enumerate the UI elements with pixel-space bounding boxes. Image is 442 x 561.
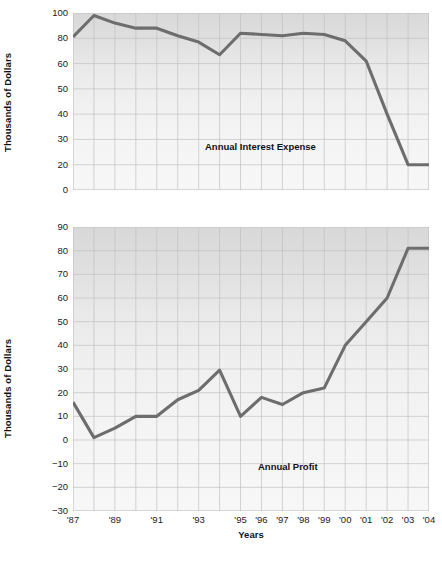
- y-tick-label: 100: [18, 8, 68, 18]
- series-annotation-bottom: Annual Profit: [258, 461, 318, 472]
- chart-annual-interest-expense: Thousands of Dollars 1008060504030200 An…: [0, 4, 442, 212]
- y-tick-label: 10: [18, 412, 68, 422]
- y-tick-label: 40: [18, 109, 68, 119]
- x-tick-label: '91: [151, 514, 163, 525]
- plot-area-top: [73, 13, 429, 190]
- y-tick-label: 30: [18, 364, 68, 374]
- y-tick-label: 0: [18, 185, 68, 195]
- x-tick-label: '89: [109, 514, 121, 525]
- y-tick-label: 50: [18, 84, 68, 94]
- y-tick-label: 60: [18, 59, 68, 69]
- x-tick-label: '96: [255, 514, 267, 525]
- y-tick-label: 40: [18, 341, 68, 351]
- x-tick-label: '99: [318, 514, 330, 525]
- plot-area-bottom: [73, 227, 429, 511]
- x-axis-title: Years: [73, 529, 429, 540]
- chart-annual-profit: Thousands of Dollars 9080706050403020100…: [0, 218, 442, 558]
- y-tick-label: 20: [18, 388, 68, 398]
- chart-page: Thousands of Dollars 1008060504030200 An…: [0, 0, 442, 561]
- y-tick-label: −20: [18, 483, 68, 493]
- y-tick-label: 80: [18, 34, 68, 44]
- x-tick-label: '03: [402, 514, 414, 525]
- y-axis-title-bottom: Thousands of Dollars: [2, 288, 13, 488]
- x-tick-label: '01: [360, 514, 372, 525]
- x-tick-label: '95: [234, 514, 246, 525]
- y-tick-label: 20: [18, 160, 68, 170]
- series-annotation-top: Annual Interest Expense: [205, 141, 316, 152]
- x-axis-ticks: '87'89'91'93'95'96'97'98'99'00'01'02'03'…: [73, 514, 429, 528]
- gridlines-top: [73, 13, 429, 190]
- x-tick-label: '87: [67, 514, 79, 525]
- plot-svg-bottom: [73, 227, 429, 511]
- y-tick-label: 30: [18, 135, 68, 145]
- x-tick-label: '02: [381, 514, 393, 525]
- x-tick-label: '93: [192, 514, 204, 525]
- y-axis-title-top: Thousands of Dollars: [2, 18, 13, 186]
- x-tick-label: '00: [339, 514, 351, 525]
- data-line-annual-profit: [73, 248, 429, 437]
- y-tick-label: 70: [18, 270, 68, 280]
- y-tick-label: −30: [18, 506, 68, 516]
- y-tick-label: 50: [18, 317, 68, 327]
- y-tick-label: −10: [18, 459, 68, 469]
- x-tick-label: '97: [276, 514, 288, 525]
- y-tick-label: 0: [18, 435, 68, 445]
- y-tick-label: 60: [18, 293, 68, 303]
- y-tick-label: 80: [18, 246, 68, 256]
- x-tick-label: '98: [297, 514, 309, 525]
- y-tick-label: 90: [18, 222, 68, 232]
- gridlines-bottom: [73, 227, 429, 511]
- plot-svg-top: [73, 13, 429, 190]
- x-tick-label: '04: [423, 514, 435, 525]
